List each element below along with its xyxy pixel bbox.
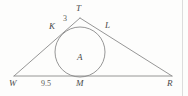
vertex-label-W: W (9, 79, 17, 88)
geometry-figure: T K 3 L A W 9.5 M R (0, 0, 188, 96)
center-label-A: A (77, 53, 83, 62)
tangent-label-M: M (76, 79, 84, 88)
side-tr (80, 18, 172, 76)
side-wt (14, 18, 80, 76)
triangle-wtr (14, 18, 172, 76)
geometry-canvas (0, 0, 188, 96)
tangent-label-K: K (49, 22, 55, 31)
vertex-label-R: R (167, 79, 173, 88)
tangent-label-L: L (105, 21, 110, 30)
page-edge-rule (182, 0, 183, 96)
measure-WM: 9.5 (41, 80, 51, 88)
measure-TK: 3 (63, 15, 67, 23)
vertex-label-T: T (76, 4, 81, 13)
